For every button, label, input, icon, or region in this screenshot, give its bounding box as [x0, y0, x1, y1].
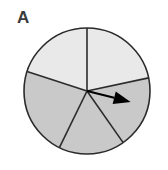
- figure-panel: A: [0, 0, 168, 170]
- spinner-wheel: [0, 0, 168, 170]
